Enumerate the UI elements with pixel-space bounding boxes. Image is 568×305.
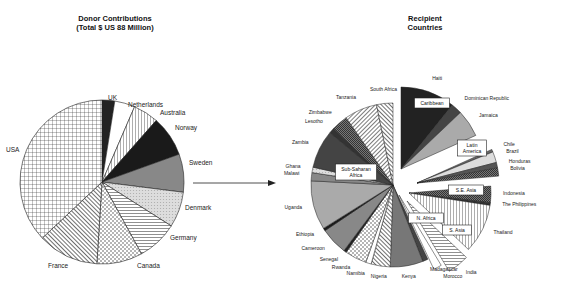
donor-label: Sweden [189, 159, 213, 166]
recipient-label: Ghana [286, 163, 301, 169]
recipient-label: Malawi [284, 170, 300, 176]
recipient-label: Ethiopia [296, 231, 314, 237]
group-label: S. Asia [449, 227, 465, 233]
donor-label: UK [108, 94, 118, 101]
group-label: N. Africa [417, 215, 436, 221]
recipient-label: Chile [503, 141, 515, 147]
pie-charts: UKNetherlandsAustraliaNorwaySwedenDenmar… [0, 0, 568, 305]
recipient-label: Morocco [443, 273, 462, 279]
group-label: S.E. Asia [456, 187, 477, 193]
recipient-label: Dominican Republic [465, 95, 510, 101]
group-label: America [463, 148, 482, 154]
group-label: Africa [350, 172, 363, 178]
group-label: Caribbean [420, 100, 443, 106]
recipient-label: Cameroon [302, 245, 326, 251]
recipient-label: India [466, 269, 477, 275]
recipient-label: Rwanda [332, 264, 351, 270]
donor-label: Australia [160, 109, 186, 116]
donor-pie: UKNetherlandsAustraliaNorwaySwedenDenmar… [6, 94, 213, 269]
recipient-label: Zimbabwe [309, 109, 332, 115]
recipient-label: Brazil [506, 148, 519, 154]
recipient-label: Namibia [347, 270, 366, 276]
recipient-label: The Philippines [502, 201, 537, 207]
recipient-label: Indonesia [503, 190, 525, 196]
recipient-label: Senegal [320, 256, 338, 262]
recipient-label: Kenya [402, 273, 416, 279]
donor-label: Netherlands [128, 101, 164, 108]
recipient-label: Uganda [284, 204, 302, 210]
recipient-pie: HaitiDominican RepublicJamaicaChileBrazi… [284, 75, 537, 279]
recipient-label: Bolivia [510, 165, 525, 171]
recipient-label: Thailand [493, 229, 512, 235]
recipient-label: Madagascar [430, 266, 458, 272]
recipient-label: South Africa [370, 86, 397, 92]
recipient-label: Zambia [292, 139, 309, 145]
recipient-label: Nigeria [371, 273, 387, 279]
donor-label: France [48, 262, 69, 269]
recipient-label: Jamaica [479, 112, 498, 118]
recipient-label: Honduras [509, 158, 531, 164]
donor-label: Canada [137, 262, 160, 269]
arrow-connector [193, 180, 276, 186]
donor-label: Denmark [185, 204, 212, 211]
recipient-label: Tanzania [336, 94, 356, 100]
donor-label: Norway [175, 124, 198, 132]
recipient-label: Lesotho [305, 118, 323, 124]
recipient-label: Haiti [432, 75, 442, 81]
donor-label: USA [6, 146, 20, 153]
donor-label: Germany [170, 234, 197, 242]
